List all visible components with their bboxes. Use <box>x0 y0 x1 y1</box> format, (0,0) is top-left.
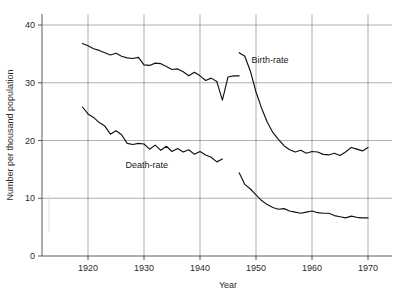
y-axis-title: Number per thousand population <box>5 69 15 200</box>
x-tick-label: 1950 <box>246 263 266 273</box>
x-tick-label: 1920 <box>78 263 98 273</box>
grid-layer <box>42 14 392 256</box>
series-line-birth-rate-pre-war-continued <box>217 76 239 100</box>
x-axis-title: Year <box>219 280 237 290</box>
series-line-birth-rate-post-war <box>239 53 368 156</box>
annotation-layer: Birth-rateDeath-rate <box>126 55 289 170</box>
x-tick-label: 1930 <box>134 263 154 273</box>
x-tick-label: 1970 <box>358 263 378 273</box>
line-chart: Birth-rateDeath-rate 0102030401920193019… <box>0 0 402 297</box>
series-layer <box>82 43 368 217</box>
y-tick-label: 0 <box>30 251 35 261</box>
x-tick-label: 1940 <box>190 263 210 273</box>
series-line-death-rate-post-war <box>239 173 368 218</box>
y-tick-label: 40 <box>25 20 35 30</box>
series-annotation-birth-rate: Birth-rate <box>251 55 288 65</box>
y-tick-label: 20 <box>25 136 35 146</box>
axis-layer <box>38 14 392 260</box>
y-tick-label: 30 <box>25 78 35 88</box>
series-line-death-rate-pre-war <box>82 107 222 162</box>
series-line-birth-rate-pre-war <box>82 43 216 81</box>
x-tick-label: 1960 <box>302 263 322 273</box>
chart-container: Birth-rateDeath-rate 0102030401920193019… <box>0 0 402 297</box>
series-annotation-death-rate: Death-rate <box>126 160 169 170</box>
axis-text-layer: 010203040192019301940195019601970YearNum… <box>5 20 378 290</box>
y-tick-label: 10 <box>25 193 35 203</box>
